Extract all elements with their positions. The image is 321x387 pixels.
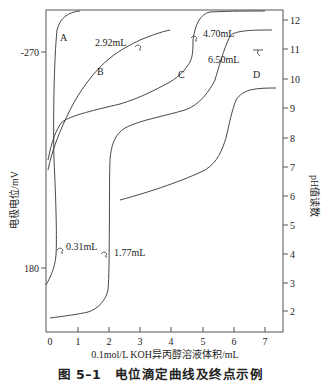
ph-tick-2: 2 — [290, 306, 295, 317]
ph-tick-12: 12 — [290, 15, 300, 26]
x-tick-3: 3 — [138, 336, 143, 347]
x-axis-ticks — [78, 327, 265, 332]
curve-d-early — [48, 30, 170, 170]
endpoint-label-177: 1.77mL — [114, 247, 145, 258]
x-tick-5: 5 — [201, 336, 206, 347]
mv-tick-minus-270: -270 — [21, 47, 39, 58]
curve-b — [50, 30, 272, 318]
x-tick-0: 0 — [48, 336, 53, 347]
ph-tick-4: 4 — [290, 249, 295, 260]
ph-tick-5: 5 — [290, 220, 295, 231]
endpoint-label-650: 6.50mL — [208, 54, 239, 65]
endpoint-markers — [57, 36, 263, 257]
x-axis-title: 0.1mol/L KOH异丙醇溶液体积/mL — [91, 348, 238, 360]
x-axis-tick-labels: 0 1 2 3 4 5 6 7 — [48, 336, 268, 347]
right-axis-tick-labels: 12 11 10 9 8 7 6 5 4 3 2 — [290, 15, 300, 317]
endpoint-292-marker — [135, 45, 141, 50]
ph-tick-6: 6 — [290, 191, 295, 202]
endpoint-177-marker — [101, 252, 107, 257]
curve-label-d: D — [253, 69, 260, 80]
x-tick-1: 1 — [76, 336, 81, 347]
plot-frame — [46, 10, 283, 332]
x-tick-6: 6 — [232, 336, 237, 347]
curve-label-b: B — [97, 66, 104, 77]
ph-tick-7: 7 — [290, 162, 295, 173]
left-axis-title: 电极电位/mV — [8, 170, 20, 229]
endpoint-470-marker — [191, 36, 197, 41]
curve-d — [120, 88, 276, 200]
endpoint-label-470: 4.70mL — [203, 28, 234, 39]
right-axis-title: pH值读数 — [309, 175, 321, 217]
ph-tick-10: 10 — [290, 74, 300, 85]
x-tick-2: 2 — [107, 336, 112, 347]
x-tick-7: 7 — [263, 336, 268, 347]
titration-chart: 0 1 2 3 4 5 6 7 0.1mol/L KOH异丙醇溶液体积/mL 1… — [0, 0, 321, 387]
curve-label-a: A — [60, 32, 68, 43]
x-tick-4: 4 — [169, 336, 174, 347]
endpoint-650-marker — [253, 50, 263, 56]
ph-tick-8: 8 — [290, 133, 295, 144]
curves — [46, 11, 276, 318]
endpoint-031-marker — [57, 248, 63, 253]
curve-label-c: C — [178, 69, 185, 80]
endpoint-label-292: 2.92mL — [95, 37, 126, 48]
figure-caption: 图 5–1 电位滴定曲线及终点示例 — [0, 364, 321, 383]
right-axis-ticks — [283, 20, 288, 311]
ph-tick-9: 9 — [290, 103, 295, 114]
ph-tick-3: 3 — [290, 278, 295, 289]
endpoint-label-031: 0.31mL — [66, 241, 97, 252]
mv-tick-180: 180 — [24, 263, 39, 274]
ph-tick-11: 11 — [290, 44, 300, 55]
left-axis-ticks — [41, 52, 46, 268]
